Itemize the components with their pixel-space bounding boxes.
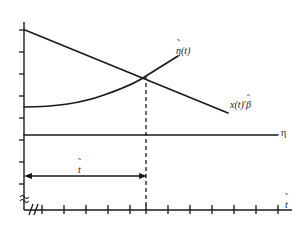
eta-tilde-glyph: ˜η [176, 46, 181, 56]
series-label-eta-tilde: ˜η(t) [176, 46, 190, 56]
tilde-accent-icon: ˜ [285, 194, 288, 204]
series-label-eta: η [281, 128, 286, 138]
measure-arrow-head-left [24, 173, 32, 179]
tilde-accent-icon: ˜ [176, 40, 181, 50]
t-tilde-glyph-axis: ˜t [285, 200, 288, 210]
figure-container: ˜η(t) x(t)′̂β η ˜t ˜t [0, 0, 302, 228]
t-tilde-measure-arrow [24, 173, 147, 179]
x-axis-label: ˜t [285, 200, 288, 210]
beta-hat-glyph: ̂β [246, 100, 251, 110]
measure-arrow-label: ˜t [78, 165, 81, 175]
figure-canvas [0, 0, 302, 228]
series-x-beta-line [25, 30, 228, 113]
series-label-x-beta: x(t)′̂β [230, 100, 251, 111]
measure-arrow-head-right [139, 173, 147, 179]
hat-accent-icon: ̂ [246, 95, 251, 105]
x-of-t: x(t) [230, 99, 244, 110]
eta-tilde-arg: (t) [181, 45, 190, 56]
t-tilde-glyph-arrow: ˜t [78, 165, 81, 175]
tilde-accent-icon: ˜ [78, 159, 81, 169]
series-eta-tilde-curve [24, 56, 178, 107]
axes-group [24, 22, 292, 210]
